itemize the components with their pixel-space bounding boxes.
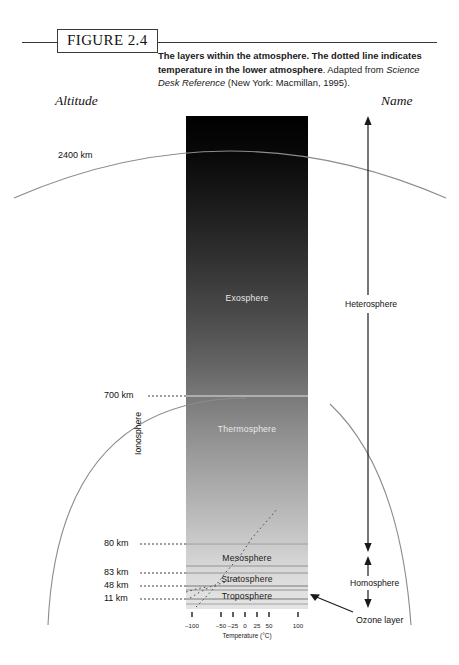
layer-label-exosphere: Exosphere <box>186 293 308 303</box>
temp-tick-label-4: 25 <box>254 622 261 629</box>
altitude-label-48km: 48 km <box>104 580 129 590</box>
altitude-label-80km: 80 km <box>104 538 129 548</box>
temp-tick-label-6: 100 <box>293 622 303 629</box>
ozone-layer-label: Ozone layer <box>356 615 403 625</box>
temp-tick-label-5: 50 <box>266 622 273 629</box>
figure-vector-overlay <box>0 0 459 665</box>
altitude-leader-lines <box>140 396 186 599</box>
layer-label-thermosphere: Thermosphere <box>186 424 308 434</box>
ionosphere-label: Ionosphere <box>133 412 143 455</box>
layer-label-stratosphere: Stratosphere <box>186 574 308 584</box>
temp-tick-label-1: –50 <box>216 622 226 629</box>
altitude-label-83km: 83 km <box>104 567 129 577</box>
temp-tick-label-2: –25 <box>228 622 238 629</box>
figure-page: FIGURE 2.4 The layers within the atmosph… <box>0 0 459 665</box>
altitude-label-11km: 11 km <box>104 593 128 603</box>
ozone-layer-pointer <box>310 594 353 612</box>
region-label-homosphere: Homosphere <box>347 578 402 588</box>
altitude-label-700km: 700 km <box>104 390 134 400</box>
temperature-axis-ticks <box>192 612 298 617</box>
temperature-axis-title: Temperature (°C) <box>186 632 308 639</box>
inner-earth-arc-right <box>330 404 411 625</box>
temp-tick-label-3: 0 <box>243 622 246 629</box>
region-label-heterosphere: Heterosphere <box>342 299 400 309</box>
layer-label-mesosphere: Mesosphere <box>186 553 308 563</box>
layer-label-troposphere: Troposphere <box>186 591 308 601</box>
heterosphere-bracket-arrow <box>364 116 371 552</box>
altitude-label-2400km: 2400 km <box>58 150 93 160</box>
temp-tick-label-0: –100 <box>185 622 199 629</box>
